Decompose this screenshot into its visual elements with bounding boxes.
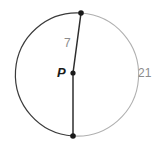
bottom-endpoint-dot xyxy=(70,133,76,139)
radius-segment-upper xyxy=(73,13,81,73)
circle-diagram-figure: P 7 21 xyxy=(0,0,162,150)
center-point-dot xyxy=(70,70,75,75)
top-endpoint-dot xyxy=(78,10,84,16)
center-point-label: P xyxy=(57,66,66,79)
minor-arc xyxy=(73,13,139,136)
radius-measure-label: 7 xyxy=(64,37,71,49)
arc-measure-label: 21 xyxy=(138,67,151,79)
